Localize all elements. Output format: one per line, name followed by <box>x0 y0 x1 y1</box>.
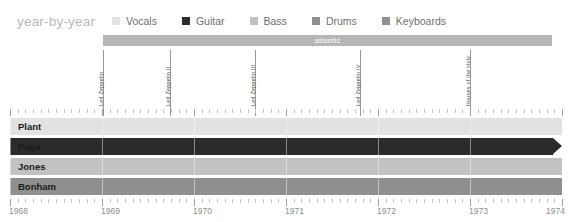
member-activity-bar <box>10 138 553 155</box>
axis-tick-minor <box>294 199 295 203</box>
row-gridline <box>286 178 287 195</box>
row-gridline <box>470 138 471 155</box>
axis-tick-minor <box>347 109 348 113</box>
axis-tick-minor <box>209 199 210 203</box>
legend-item-label: Bass <box>264 15 287 27</box>
axis-tick-minor <box>25 199 26 203</box>
album-marker-label: Led Zeppelin IV <box>355 64 361 106</box>
axis-tick-minor <box>41 109 42 113</box>
axis-tick-minor <box>171 199 172 203</box>
axis-tick-minor <box>455 199 456 203</box>
axis-tick-minor <box>125 109 126 113</box>
axis-tick-minor <box>516 199 517 203</box>
legend-item-bass[interactable]: Bass <box>250 15 287 27</box>
axis-tick-minor <box>202 199 203 203</box>
axis-tick-minor <box>148 199 149 203</box>
axis-tick-major <box>286 109 287 116</box>
year-axis-label: 1969 <box>101 206 120 216</box>
album-marker[interactable]: Houses of the Holy <box>470 50 471 116</box>
axis-tick-major <box>102 109 103 116</box>
axis-tick-minor <box>110 109 111 113</box>
axis-tick-minor <box>401 199 402 203</box>
row-gridline <box>10 138 11 155</box>
member-row[interactable]: Jones <box>10 158 562 175</box>
axis-tick-minor <box>232 109 233 113</box>
axis-tick-minor <box>209 109 210 113</box>
legend-item-keyboards[interactable]: Keyboards <box>382 15 446 27</box>
album-marker[interactable]: Led Zeppelin II <box>170 50 171 116</box>
album-marker-label: Led Zeppelin <box>98 72 104 106</box>
axis-tick-minor <box>56 199 57 203</box>
record-label-band: atlantic <box>103 35 552 46</box>
album-marker[interactable]: Led Zeppelin <box>103 50 104 116</box>
axis-tick-minor <box>386 109 387 113</box>
axis-tick-minor <box>87 109 88 113</box>
axis-tick-minor <box>278 109 279 113</box>
axis-tick-minor <box>64 109 65 113</box>
year-axis-label: 1972 <box>377 206 396 216</box>
legend-swatch-icon <box>250 17 258 25</box>
member-name-label: Page <box>18 138 41 155</box>
row-gridline <box>286 158 287 175</box>
axis-tick-minor <box>140 199 141 203</box>
member-row[interactable]: Page <box>10 138 562 155</box>
axis-tick-minor <box>363 109 364 113</box>
axis-tick-minor <box>240 199 241 203</box>
axis-tick-major <box>378 199 379 206</box>
axis-tick-minor <box>202 109 203 113</box>
member-row[interactable]: Bonham <box>10 178 562 195</box>
axis-tick-minor <box>501 199 502 203</box>
axis-tick-minor <box>332 199 333 203</box>
axis-tick-minor <box>71 109 72 113</box>
axis-tick-minor <box>462 109 463 113</box>
axis-tick-minor <box>248 199 249 203</box>
member-row[interactable]: Plant <box>10 118 562 135</box>
album-markers: Led ZeppelinLed Zeppelin IILed Zeppelin … <box>0 50 570 116</box>
axis-tick-minor <box>232 199 233 203</box>
axis-tick-minor <box>294 109 295 113</box>
axis-tick-minor <box>18 109 19 113</box>
axis-tick-minor <box>554 199 555 203</box>
year-by-year-timeline-chart: year-by-year VocalsGuitarBassDrumsKeyboa… <box>0 0 570 222</box>
axis-tick-minor <box>263 199 264 203</box>
row-gridline <box>562 178 563 195</box>
legend-item-drums[interactable]: Drums <box>312 15 357 27</box>
axis-tick-major <box>470 109 471 116</box>
axis-tick-minor <box>355 199 356 203</box>
album-marker-label: Led Zeppelin II <box>165 66 171 106</box>
year-axis-label: 1970 <box>193 206 212 216</box>
legend-item-guitar[interactable]: Guitar <box>182 15 225 27</box>
axis-tick-minor <box>25 109 26 113</box>
axis-tick-minor <box>409 109 410 113</box>
axis-tick-minor <box>447 109 448 113</box>
album-marker[interactable]: Led Zeppelin III <box>255 50 256 116</box>
axis-tick-minor <box>94 199 95 203</box>
legend-item-vocals[interactable]: Vocals <box>112 15 157 27</box>
row-gridline <box>194 138 195 155</box>
axis-tick-minor <box>485 199 486 203</box>
legend-swatch-icon <box>382 17 390 25</box>
axis-tick-minor <box>317 199 318 203</box>
axis-tick-minor <box>493 109 494 113</box>
axis-tick-minor <box>355 109 356 113</box>
axis-tick-major <box>562 199 563 206</box>
axis-tick-minor <box>455 109 456 113</box>
axis-tick-minor <box>255 109 256 113</box>
album-marker[interactable]: Led Zeppelin IV <box>360 50 361 116</box>
axis-tick-minor <box>416 109 417 113</box>
axis-tick-minor <box>263 109 264 113</box>
row-gridline <box>378 158 379 175</box>
axis-tick-major <box>194 109 195 116</box>
legend-item-label: Vocals <box>126 15 157 27</box>
row-gridline <box>378 138 379 155</box>
axis-tick-minor <box>217 109 218 113</box>
axis-tick-minor <box>363 199 364 203</box>
row-gridline <box>194 158 195 175</box>
axis-tick-minor <box>539 199 540 203</box>
axis-tick-minor <box>48 199 49 203</box>
axis-tick-major <box>102 199 103 206</box>
row-gridline <box>10 158 11 175</box>
member-name-label: Jones <box>18 158 45 175</box>
page-title: year-by-year <box>17 14 95 29</box>
row-gridline <box>102 178 103 195</box>
